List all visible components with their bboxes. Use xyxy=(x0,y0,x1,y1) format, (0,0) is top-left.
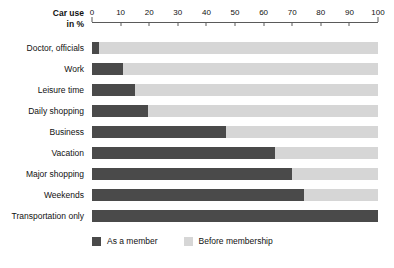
bar-segment-as-a-member xyxy=(92,126,226,138)
axis-title-line2: in % xyxy=(0,19,84,30)
chart-row: Major shopping xyxy=(0,166,394,187)
chart-row: Weekends xyxy=(0,187,394,208)
x-axis-tick-label: 70 xyxy=(288,8,297,18)
x-axis-tick-label: 30 xyxy=(173,8,182,18)
x-axis-tick-mark xyxy=(206,22,207,26)
x-axis-tick-label: 90 xyxy=(345,8,354,18)
legend-swatch xyxy=(92,237,101,246)
legend-label: Before membership xyxy=(199,236,273,246)
legend-swatch xyxy=(184,237,193,246)
bar-track-before-membership xyxy=(92,126,378,138)
category-label: Leisure time xyxy=(0,84,84,96)
x-axis-tick-mark xyxy=(235,22,236,26)
bar-track-before-membership xyxy=(92,63,378,75)
chart-row: Transportation only xyxy=(0,208,394,229)
x-axis-tick-label: 10 xyxy=(116,8,125,18)
chart-row: Work xyxy=(0,61,394,82)
legend-label: As a member xyxy=(107,236,158,246)
chart-rows: Doctor, officialsWorkLeisure timeDaily s… xyxy=(0,40,394,229)
x-axis-scale: 0102030405060708090100 xyxy=(92,8,378,36)
bar-track-before-membership xyxy=(92,105,378,117)
bar-segment-as-a-member xyxy=(92,147,275,159)
x-axis-tick-mark xyxy=(292,22,293,26)
x-axis-tick-mark xyxy=(92,17,93,22)
bar-segment-as-a-member xyxy=(92,189,304,201)
chart-row: Doctor, officials xyxy=(0,40,394,61)
bar-track-before-membership xyxy=(92,84,378,96)
category-label: Work xyxy=(0,63,84,75)
axis-title-line1: Car use xyxy=(53,8,84,18)
bar-track-before-membership xyxy=(92,147,378,159)
bar-track-before-membership xyxy=(92,168,378,180)
x-axis-tick-mark xyxy=(320,22,321,26)
x-axis-tick-label: 60 xyxy=(259,8,268,18)
bar-chart: Car use in % 0102030405060708090100 Doct… xyxy=(0,0,394,268)
bar-track-before-membership xyxy=(92,42,378,54)
bar-track-before-membership xyxy=(92,189,378,201)
bar-track-before-membership xyxy=(92,210,378,222)
category-label: Weekends xyxy=(0,189,84,201)
legend-item: As a member xyxy=(92,236,158,246)
axis-title: Car use in % xyxy=(0,8,84,29)
x-axis-tick-mark xyxy=(120,22,121,26)
category-label: Daily shopping xyxy=(0,105,84,117)
x-axis-tick-mark xyxy=(263,22,264,26)
x-axis-tick-mark xyxy=(349,22,350,26)
x-axis-tick-mark xyxy=(149,22,150,26)
chart-row: Leisure time xyxy=(0,82,394,103)
x-axis-tick-label: 20 xyxy=(145,8,154,18)
x-axis-tick-mark xyxy=(177,22,178,26)
category-label: Transportation only xyxy=(0,210,84,222)
category-label: Major shopping xyxy=(0,168,84,180)
bar-segment-as-a-member xyxy=(92,210,378,222)
category-label: Vacation xyxy=(0,147,84,159)
chart-row: Business xyxy=(0,124,394,145)
bar-segment-as-a-member xyxy=(92,105,148,117)
x-axis-tick-label: 40 xyxy=(202,8,211,18)
legend-item: Before membership xyxy=(184,236,273,246)
x-axis-tick-label: 80 xyxy=(316,8,325,18)
category-label: Doctor, officials xyxy=(0,42,84,54)
bar-segment-as-a-member xyxy=(92,42,99,54)
bar-segment-as-a-member xyxy=(92,168,292,180)
chart-axis-header: Car use in % 0102030405060708090100 xyxy=(0,8,394,36)
bar-segment-as-a-member xyxy=(92,84,135,96)
chart-legend: As a memberBefore membership xyxy=(92,236,273,246)
x-axis-tick-mark xyxy=(378,17,379,22)
x-axis-tick-label: 50 xyxy=(231,8,240,18)
category-label: Business xyxy=(0,126,84,138)
bar-segment-as-a-member xyxy=(92,63,123,75)
chart-row: Daily shopping xyxy=(0,103,394,124)
chart-row: Vacation xyxy=(0,145,394,166)
